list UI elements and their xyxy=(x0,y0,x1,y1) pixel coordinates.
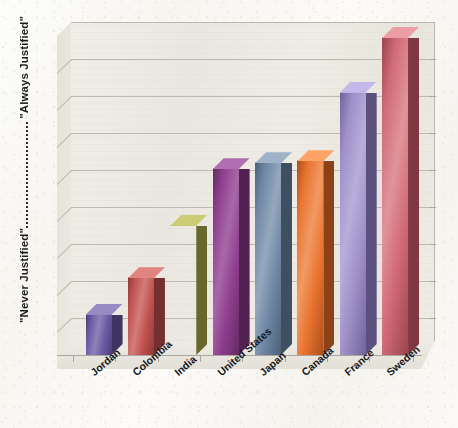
x-axis-tick xyxy=(73,355,74,362)
bar-side xyxy=(366,93,377,355)
gridline xyxy=(71,133,435,134)
gridline xyxy=(71,96,435,97)
x-axis-tick xyxy=(200,355,201,362)
y-axis-dotted-connector xyxy=(26,122,28,228)
y-axis-tick xyxy=(430,96,436,97)
bar-canada[interactable] xyxy=(297,161,323,355)
bar-japan[interactable] xyxy=(255,163,281,355)
y-axis-low-label: "Never Justified" xyxy=(18,228,30,323)
bar-united-states[interactable] xyxy=(213,169,239,355)
bar-face xyxy=(340,92,366,355)
bar-sweden[interactable] xyxy=(382,38,408,355)
bar-colombia[interactable] xyxy=(128,278,154,355)
gridline xyxy=(71,170,435,171)
y-axis-tick xyxy=(430,318,436,319)
bar-face xyxy=(170,225,196,355)
bar-face xyxy=(86,314,112,355)
y-axis-tick xyxy=(430,133,436,134)
bar-face xyxy=(255,162,281,355)
bar-side xyxy=(323,161,334,355)
y-axis-tick xyxy=(430,59,436,60)
bar-face xyxy=(382,37,408,355)
bar-france[interactable] xyxy=(340,93,366,355)
bar-side xyxy=(281,163,292,355)
y-axis-tick xyxy=(430,281,436,282)
y-axis-tick xyxy=(430,244,436,245)
bar-face xyxy=(128,277,154,355)
chart-plot-area xyxy=(57,22,435,355)
plot-back-wall xyxy=(71,22,435,341)
gridline xyxy=(71,244,435,245)
gridline xyxy=(71,207,435,208)
bar-face xyxy=(297,160,323,355)
bar-side xyxy=(196,226,207,355)
bar-side xyxy=(239,169,250,355)
y-axis-high-label: "Always Justified" xyxy=(18,16,30,119)
bar-face xyxy=(213,168,239,355)
y-axis-tick xyxy=(430,207,436,208)
bar-side xyxy=(408,38,419,355)
gridline xyxy=(71,281,435,282)
gridline xyxy=(71,318,435,319)
gridline xyxy=(71,59,435,60)
y-axis-tick xyxy=(430,170,436,171)
plot-left-wall xyxy=(57,22,72,369)
bar-india[interactable] xyxy=(170,226,196,355)
bar-jordan[interactable] xyxy=(86,315,112,355)
